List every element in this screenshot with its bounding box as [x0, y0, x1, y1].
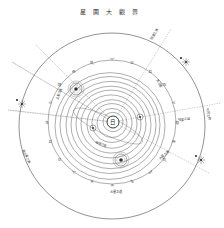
zodiac-symbol-icon: ♈ [72, 170, 76, 175]
planet-small-right [137, 114, 143, 120]
orbit-label: 恒星之界 [149, 27, 160, 41]
zodiac-symbol-icon: ♑ [130, 179, 134, 184]
planet-ringed-lower [113, 152, 129, 168]
zodiac-symbol-icon: ♊ [48, 139, 52, 144]
zodiac-symbol-icon: ♉ [57, 157, 61, 162]
orbit-label: 地球之道 [95, 139, 109, 148]
orbit-label: 海王星之界 [21, 148, 32, 165]
zodiac-symbol-icon: ♌ [48, 100, 52, 105]
zodiac-symbol-icon: ♊ [148, 69, 152, 74]
orbit-label: 土星之道 [54, 86, 63, 100]
sun-icon: 日 [107, 116, 119, 128]
zodiac-symbol-icon: ♐ [148, 170, 152, 175]
orbit-labels: 恒星之界天王星土星之道木星之道海王星之界彗星之道地球之道火星之道天河之界 [21, 27, 212, 194]
planet-small-left [90, 125, 96, 131]
zodiac-symbol-icon: ♒ [110, 183, 114, 188]
zodiac-symbol-icon: ♋ [45, 120, 49, 125]
solar-system-diagram: ♈♉♊♋♌♍♎♏♐♑♒♓♈♉♊♋♌♍♎♏ 日 恒星之界天王星土星之道木星之道海王… [0, 0, 224, 228]
zodiac-symbol-icon: ♓ [90, 179, 94, 184]
zodiac-symbol-icon: ♎ [172, 139, 176, 144]
sun-label: 日 [110, 119, 116, 126]
orbit-label: 彗星之道 [178, 116, 191, 122]
dashed-line [113, 103, 221, 122]
star-icons [16, 57, 205, 164]
zodiac-symbol-icon: ♈ [110, 57, 114, 62]
zodiac-symbol-icon: ♉ [130, 60, 134, 65]
zodiac-symbol-icon: ♍ [57, 82, 61, 87]
dashed-line [12, 62, 113, 122]
orbit-label: 天河之界 [205, 107, 212, 121]
radial-dashed-lines [8, 29, 221, 174]
zodiac-symbol-icon: ♎ [72, 69, 76, 74]
zodiac-symbol-icon: ♌ [172, 100, 176, 105]
orbit-label: 火星之道 [110, 189, 123, 194]
zodiac-symbol-icon: ♏ [90, 60, 94, 65]
